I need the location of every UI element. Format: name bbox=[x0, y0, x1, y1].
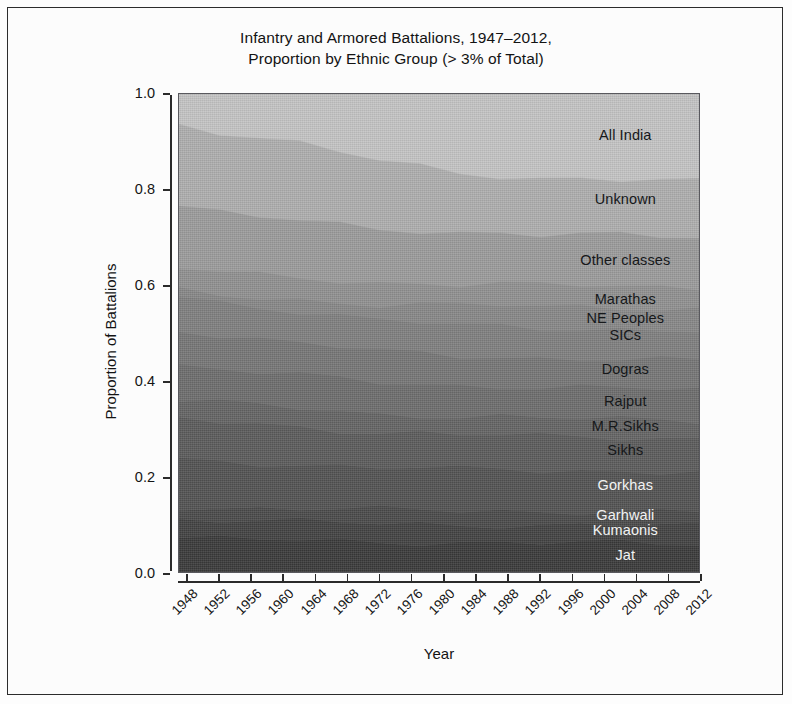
y-tick-label: 0.2 bbox=[0, 469, 155, 485]
x-tick-mark bbox=[315, 574, 317, 581]
y-tick-label: 0.8 bbox=[0, 181, 155, 197]
y-axis-title: Proportion of Battalions bbox=[102, 192, 119, 492]
x-tick-mark bbox=[700, 574, 702, 581]
stacked-area-plot bbox=[179, 94, 700, 573]
y-tick-label: 0.6 bbox=[0, 277, 155, 293]
x-tick-mark bbox=[282, 574, 284, 581]
x-tick-mark bbox=[572, 574, 574, 581]
x-tick-mark bbox=[379, 574, 381, 581]
y-tick-mark bbox=[163, 573, 170, 575]
x-tick-mark bbox=[347, 574, 349, 581]
x-tick-mark bbox=[443, 574, 445, 581]
x-tick-mark bbox=[186, 574, 188, 581]
x-tick-mark bbox=[411, 574, 413, 581]
y-tick-label: 1.0 bbox=[0, 85, 155, 101]
x-tick-mark bbox=[636, 574, 638, 581]
y-axis-line bbox=[170, 95, 172, 571]
x-tick-mark bbox=[668, 574, 670, 581]
plot-area: JatKumaonisGarhwaliGorkhasSikhsM.R.Sikhs… bbox=[178, 93, 700, 573]
y-tick-mark bbox=[163, 285, 170, 287]
figure-canvas: Infantry and Armored Battalions, 1947–20… bbox=[0, 0, 792, 704]
y-tick-mark bbox=[163, 189, 170, 191]
chart-title-line-1: Infantry and Armored Battalions, 1947–20… bbox=[0, 27, 792, 48]
x-tick-mark bbox=[218, 574, 220, 581]
y-tick-mark bbox=[163, 93, 170, 95]
x-tick-mark bbox=[475, 574, 477, 581]
y-tick-mark bbox=[163, 477, 170, 479]
x-axis-title: Year bbox=[178, 645, 700, 662]
x-tick-mark bbox=[539, 574, 541, 581]
y-tick-label: 0.4 bbox=[0, 373, 155, 389]
y-tick-mark bbox=[163, 381, 170, 383]
area-band-group bbox=[179, 94, 700, 573]
x-tick-mark bbox=[604, 574, 606, 581]
x-tick-mark bbox=[507, 574, 509, 581]
x-axis-line bbox=[178, 581, 700, 583]
y-tick-label: 0.0 bbox=[0, 565, 155, 581]
x-tick-mark bbox=[250, 574, 252, 581]
chart-title-line-2: Proportion by Ethnic Group (> 3% of Tota… bbox=[0, 48, 792, 69]
chart-title: Infantry and Armored Battalions, 1947–20… bbox=[0, 27, 792, 69]
